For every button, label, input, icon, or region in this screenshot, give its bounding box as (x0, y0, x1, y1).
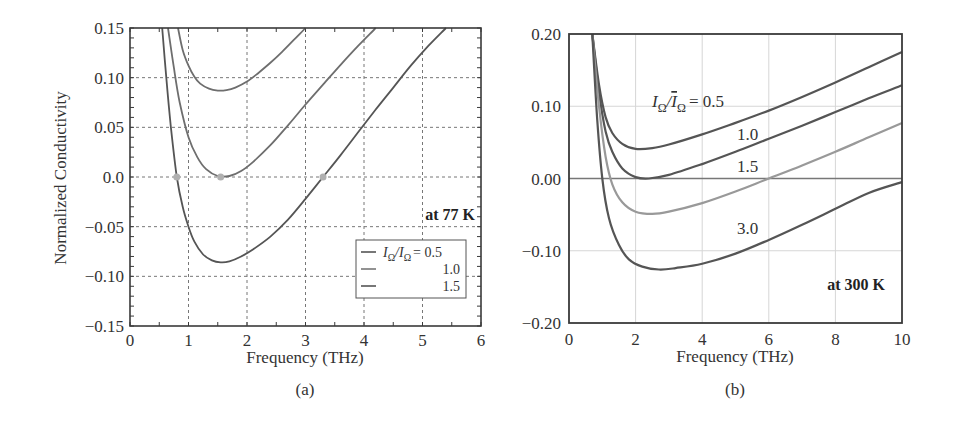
zero-crossing-marker (320, 174, 327, 181)
figure: 0.150.100.050.0−0.05−0.10−0.15 0123456 F… (0, 0, 958, 427)
y-tick-label: 0.10 (94, 69, 124, 88)
y-tick-label: −0.15 (85, 317, 124, 336)
x-tick-label: 5 (418, 331, 427, 350)
y-tick-label: 0.0 (103, 168, 124, 187)
panel-b-y-tick-labels: 0.200.100.00−0.10−0.20 (522, 25, 561, 333)
curve-label-3-0: 3.0 (737, 219, 758, 238)
curve-1-0 (168, 28, 376, 177)
panel-a-chart: 0.150.100.050.0−0.05−0.10−0.15 0123456 F… (51, 19, 485, 399)
y-tick-label: 0.15 (94, 19, 124, 38)
x-tick-label: 8 (831, 330, 840, 349)
legend-entry-1-0: 1.0 (443, 262, 461, 277)
curve-label-1-0: 1.0 (737, 125, 758, 144)
x-tick-label: 0 (565, 330, 574, 349)
curve-1-5 (162, 28, 446, 262)
y-tick-label: −0.10 (85, 267, 124, 286)
curve-1-5 (592, 34, 902, 214)
panel-a-temperature-annotation: at 77 K (425, 206, 475, 223)
curve-0-5 (178, 28, 306, 91)
panel-a-legend: IΩ/IΩ= 0.5 1.0 1.5 (356, 240, 466, 298)
panel-a-curves (162, 28, 446, 262)
panel-b-x-axis-label: Frequency (THz) (676, 347, 794, 366)
x-tick-label: 10 (894, 330, 911, 349)
y-tick-label: 0.20 (531, 25, 561, 44)
curve-label-1-5: 1.5 (737, 157, 758, 176)
y-tick-label: 0.10 (531, 97, 561, 116)
panel-a-y-axis-label: Normalized Conductivity (51, 91, 70, 265)
panel-a-x-axis-label: Frequency (THz) (246, 348, 364, 367)
x-tick-label: 1 (184, 331, 193, 350)
y-tick-label: −0.05 (85, 218, 124, 237)
y-tick-label: −0.20 (522, 314, 561, 333)
y-tick-label: −0.10 (522, 242, 561, 261)
panel-b-caption: (b) (725, 380, 745, 399)
legend-entry-1-5: 1.5 (443, 279, 461, 294)
curve-label-0-5: IΩ/IΩ= 0.5 (651, 92, 724, 115)
panel-a-caption: (a) (296, 380, 315, 399)
zero-crossing-marker (173, 174, 180, 181)
y-tick-label: 0.05 (94, 118, 124, 137)
zero-crossing-marker (217, 174, 224, 181)
x-tick-label: 2 (631, 330, 640, 349)
panel-b-chart: 0.200.100.00−0.10−0.20 0246810 Frequency… (522, 25, 911, 399)
panel-a-y-tick-labels: 0.150.100.050.0−0.05−0.10−0.15 (85, 19, 124, 336)
x-tick-label: 6 (477, 331, 486, 350)
x-tick-label: 0 (126, 331, 135, 350)
y-tick-label: 0.00 (531, 170, 561, 189)
panel-b-temperature-annotation: at 300 K (827, 276, 885, 293)
